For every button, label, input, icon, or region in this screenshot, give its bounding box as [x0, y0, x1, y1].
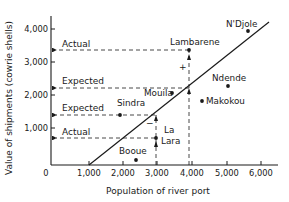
point-label-mouila: Mouila — [144, 88, 173, 98]
point-sindra — [118, 113, 122, 117]
point-label-booue: Booue — [119, 146, 147, 156]
y-tick-labels: 4,000 3,000 2,000 1,000 — [24, 24, 48, 133]
y-axis-title: Value of shipments (cowrie shells) — [4, 21, 14, 175]
point-booue — [134, 158, 138, 162]
point-lambarene — [187, 48, 191, 52]
y-tick-3000: 3,000 — [24, 57, 48, 67]
point-label-ndjole: N'Djole — [226, 19, 257, 29]
point-label-ndende: Ndende — [212, 73, 246, 83]
point-makokou — [200, 99, 204, 103]
x-tick-2000: 2,000 — [111, 168, 135, 178]
x-tick-4000: 4,000 — [180, 168, 204, 178]
y-tick-2000: 2,000 — [24, 90, 48, 100]
label-plus-residual: + — [179, 62, 187, 72]
point-ndjole — [246, 29, 250, 33]
x-tick-3000: 3,000 — [145, 168, 169, 178]
point-label-sindra: Sindra — [117, 98, 145, 108]
x-tick-5000: 5,000 — [215, 168, 239, 178]
label-actual-bottom: Actual — [62, 127, 90, 137]
x-axis-title: Population of river port — [106, 186, 210, 196]
y-tick-1000: 1,000 — [24, 123, 48, 133]
point-label-lambarene: Lambarene — [170, 37, 220, 47]
x-tick-0: 0 — [43, 168, 48, 178]
x-tick-labels: 0 1,000 2,000 3,000 4,000 5,000 6,000 — [43, 168, 273, 178]
label-expected-top: Expected — [62, 76, 104, 86]
y-ticks — [51, 29, 55, 128]
x-tick-1000: 1,000 — [77, 168, 101, 178]
label-minus-residual: − — [146, 118, 154, 128]
label-expected-bottom: Expected — [62, 103, 104, 113]
point-ndende — [226, 84, 230, 88]
label-actual-top: Actual — [62, 39, 90, 49]
x-ticks — [89, 161, 261, 165]
point-label-lara: Lara — [161, 136, 180, 146]
scatter-chart: 4,000 3,000 2,000 1,000 0 1,000 2,000 3,… — [0, 0, 289, 202]
point-label-makokou: Makokou — [206, 96, 245, 106]
point-label-la: La — [164, 125, 174, 135]
lalara-residual-guides — [56, 115, 156, 165]
y-tick-4000: 4,000 — [24, 24, 48, 34]
point-lalara — [154, 136, 158, 140]
x-tick-6000: 6,000 — [249, 168, 273, 178]
